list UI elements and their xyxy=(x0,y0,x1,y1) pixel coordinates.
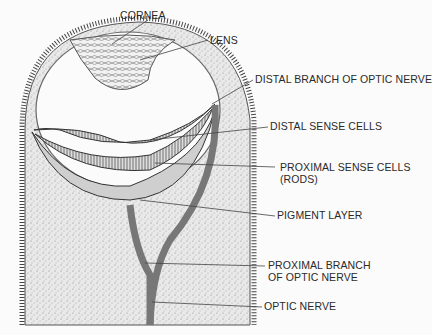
label-optic-nerve: OPTIC NERVE xyxy=(264,301,336,312)
label-lens: LENS xyxy=(210,35,238,46)
label-cornea: CORNEA xyxy=(120,10,166,21)
label-distal-sense-cells: DISTAL SENSE CELLS xyxy=(270,121,382,132)
label-pigment-layer: PIGMENT LAYER xyxy=(277,210,363,221)
label-proximal-sense-cells-rods: (RODS) xyxy=(280,174,318,185)
label-proximal-branch-2: OF OPTIC NERVE xyxy=(268,272,358,283)
label-proximal-sense-cells: PROXIMAL SENSE CELLS xyxy=(280,162,411,173)
label-proximal-branch: PROXIMAL BRANCH xyxy=(268,260,371,271)
label-distal-branch: DISTAL BRANCH OF OPTIC NERVE xyxy=(255,74,432,85)
